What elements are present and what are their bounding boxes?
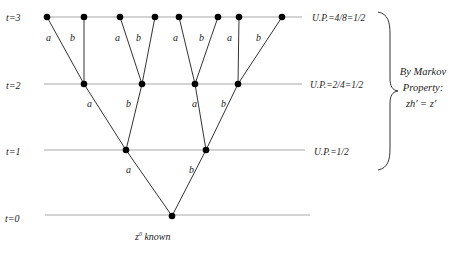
edge-label: b (221, 98, 226, 109)
tree-edges (47, 17, 282, 216)
markov-line-2: Property: (402, 82, 443, 93)
time-label-t0: t=0 (5, 213, 20, 224)
binary-tree-diagram: t=3 t=2 t=1 t=0 a b a b a b a b a b a b … (0, 0, 453, 253)
edge-label: a (192, 98, 197, 109)
time-label-t3: t=3 (6, 12, 21, 23)
edge-label: a (173, 32, 178, 43)
edge-label: a (87, 98, 92, 109)
edge-label: a (46, 32, 51, 43)
tree-nodes (44, 14, 286, 220)
curly-brace (378, 12, 398, 170)
node-root (169, 213, 176, 220)
markov-line-3: zh' = z' (405, 98, 437, 109)
edge-label: b (70, 32, 75, 43)
markov-line-1: By Markov (400, 66, 447, 77)
edge-label: a (126, 164, 131, 175)
edge-label: b (126, 98, 131, 109)
edge-label: a (227, 32, 232, 43)
edge-label: a (115, 32, 120, 43)
up-label-t2: U.P.=2/4=1/2 (310, 80, 364, 90)
up-label-t1: U.P.=1/2 (314, 147, 349, 157)
time-label-t2: t=2 (6, 80, 21, 91)
root-label: z0 known (134, 231, 171, 242)
up-label-t3: U.P.=4/8=1/2 (312, 13, 366, 23)
edge-label: b (256, 32, 261, 43)
time-label-t1: t=1 (6, 146, 21, 157)
edge-label: b (136, 32, 141, 43)
edge-label: b (189, 164, 194, 175)
edge-label: b (199, 32, 204, 43)
